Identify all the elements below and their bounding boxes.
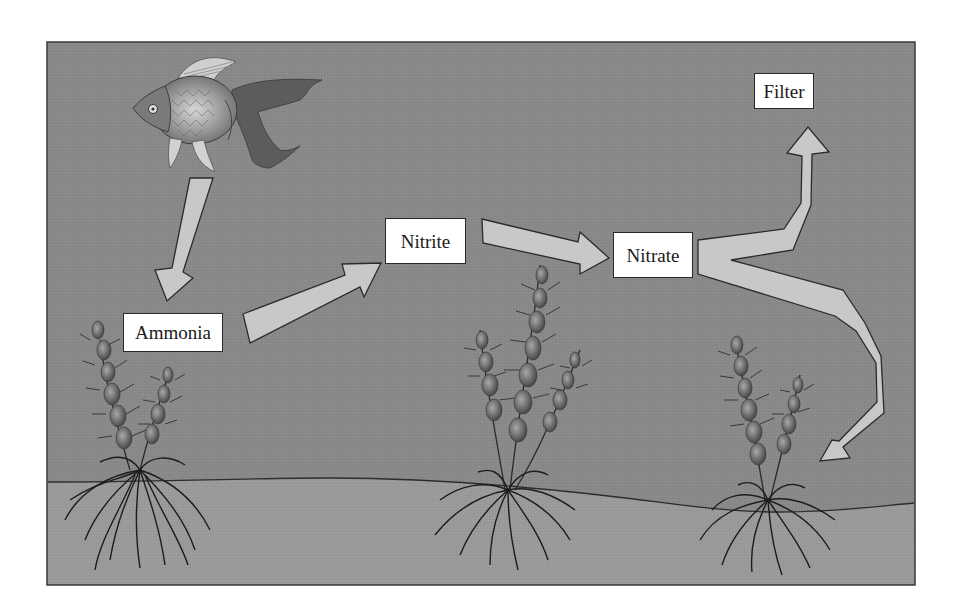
nitrite-label: Nitrite: [385, 218, 466, 264]
filter-label: Filter: [754, 73, 814, 109]
aquarium-diagram: [0, 0, 959, 610]
ammonia-label: Ammonia: [123, 313, 223, 352]
nitrate-label: Nitrate: [613, 232, 693, 278]
